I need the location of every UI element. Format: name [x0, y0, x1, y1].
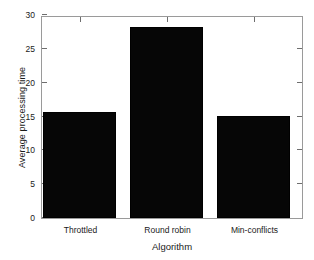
- y-tick-label-5: 5: [30, 179, 35, 189]
- x-axis-title: Algorithm: [41, 241, 303, 252]
- plot-area: 0 5 10 15 20 25 30 Throttled Round: [41, 16, 303, 219]
- x-tick-label-min-conflicts: Min-conflicts: [231, 225, 278, 235]
- y-tick-label-25: 25: [26, 44, 35, 54]
- x-tick-top-min-conflicts: [254, 17, 255, 22]
- bar-round-robin: [130, 27, 203, 218]
- bar-throttled: [43, 112, 116, 218]
- y-tick-label-30: 30: [26, 10, 35, 20]
- y-tick-right-10: [297, 149, 302, 150]
- y-tick-right-20: [297, 82, 302, 83]
- y-tick-20: 20: [42, 82, 47, 83]
- x-tick-label-throttled: Throttled: [64, 225, 98, 235]
- x-tick-top-round-robin: [167, 17, 168, 22]
- bar-min-conflicts: [217, 116, 290, 218]
- bar-chart-figure: Average processing time 0 5 10 15 20 25 …: [0, 0, 314, 260]
- x-tick-top-throttled: [80, 17, 81, 22]
- y-tick-label-15: 15: [26, 112, 35, 122]
- y-tick-right-25: [297, 48, 302, 49]
- y-tick-label-10: 10: [26, 145, 35, 155]
- y-tick-right-15: [297, 116, 302, 117]
- y-tick-label-0: 0: [30, 213, 35, 223]
- y-tick-30: 30: [42, 14, 47, 15]
- x-tick-label-round-robin: Round robin: [144, 225, 190, 235]
- y-tick-label-20: 20: [26, 78, 35, 88]
- y-tick-25: 25: [42, 48, 47, 49]
- y-tick-right-5: [297, 183, 302, 184]
